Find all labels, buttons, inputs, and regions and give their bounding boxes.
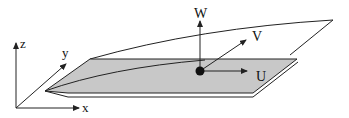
v-vector-label: V bbox=[252, 29, 262, 44]
origin-point bbox=[196, 67, 205, 76]
u-vector-label: U bbox=[256, 69, 266, 84]
x-axis-label: x bbox=[82, 100, 89, 115]
upper-sheet-outline bbox=[90, 20, 333, 59]
z-axis-label: z bbox=[20, 36, 26, 51]
diagram-canvas: z x y W V U bbox=[0, 0, 349, 118]
y-axis-label: y bbox=[62, 45, 69, 60]
w-vector-label: W bbox=[194, 6, 208, 21]
